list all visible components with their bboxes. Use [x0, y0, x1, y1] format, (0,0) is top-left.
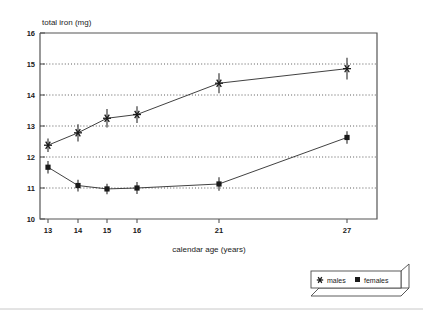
square-marker-icon — [75, 183, 80, 188]
y-tick-marks — [40, 33, 45, 219]
square-marker-icon — [134, 185, 139, 190]
data-point[interactable] — [134, 185, 139, 190]
y-tick-label: 10 — [27, 215, 35, 224]
x-tick-label: 27 — [343, 226, 351, 235]
x-tick-label: 14 — [74, 226, 83, 235]
square-marker-icon — [355, 277, 360, 282]
data-point[interactable] — [216, 181, 221, 186]
data-point[interactable] — [75, 183, 80, 188]
series-line-males — [48, 69, 347, 146]
legend-label-females: females — [364, 277, 389, 284]
data-point[interactable] — [344, 135, 349, 140]
y-tick-label: 14 — [27, 91, 36, 100]
y-tick-label: 15 — [27, 60, 35, 69]
x-tick-label: 21 — [215, 226, 223, 235]
data-point[interactable] — [104, 186, 109, 191]
series-females — [45, 131, 349, 194]
y-tick-label: 12 — [27, 153, 35, 162]
y-axis-title: total iron (mg) — [42, 18, 92, 27]
gridlines — [40, 64, 377, 188]
chart-figure: 16 15 14 13 12 11 10 13 14 15 16 21 27 — [0, 0, 423, 316]
x-tick-label: 16 — [133, 226, 141, 235]
square-marker-icon — [45, 165, 50, 170]
y-tick-label: 13 — [27, 122, 35, 131]
data-point[interactable] — [45, 165, 50, 170]
y-tick-labels: 16 15 14 13 12 11 10 — [27, 29, 36, 224]
x-axis-title: calendar age (years) — [172, 245, 246, 254]
square-marker-icon — [216, 181, 221, 186]
legend-label-males: males — [327, 277, 346, 284]
series-males — [44, 58, 351, 152]
x-tick-labels: 13 14 15 16 21 27 — [44, 226, 351, 235]
y-tick-label: 16 — [27, 29, 35, 38]
square-marker-icon — [344, 135, 349, 140]
y-tick-label: 11 — [27, 184, 35, 193]
legend-entry-males[interactable]: males — [317, 277, 346, 284]
legend: males females — [311, 264, 409, 296]
x-tick-label: 13 — [44, 226, 52, 235]
legend-bottom-face — [311, 288, 409, 296]
x-tick-label: 15 — [103, 226, 111, 235]
square-marker-icon — [104, 186, 109, 191]
series-line-females — [48, 137, 347, 188]
chart-canvas: 16 15 14 13 12 11 10 13 14 15 16 21 27 — [0, 0, 423, 316]
